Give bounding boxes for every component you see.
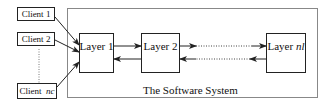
- software-system-label: The Software System: [143, 84, 238, 96]
- client-nc-box: Client nc: [17, 83, 57, 99]
- layer-nl-label: Layer nl: [268, 40, 305, 52]
- client-2-box: Client 2: [17, 32, 55, 46]
- layer-1-box: Layer 1: [79, 33, 114, 73]
- layer-2-label: Layer 2: [144, 40, 178, 52]
- layer-2-box: Layer 2: [141, 33, 180, 73]
- client-1-box: Client 1: [17, 7, 55, 21]
- client-2-label: Client 2: [22, 34, 51, 44]
- layer-nl-box: Layer nl: [266, 33, 306, 73]
- client-1-label: Client 1: [22, 9, 51, 19]
- client-nc-label: Client nc: [20, 86, 55, 96]
- layer-1-label: Layer 1: [80, 40, 114, 52]
